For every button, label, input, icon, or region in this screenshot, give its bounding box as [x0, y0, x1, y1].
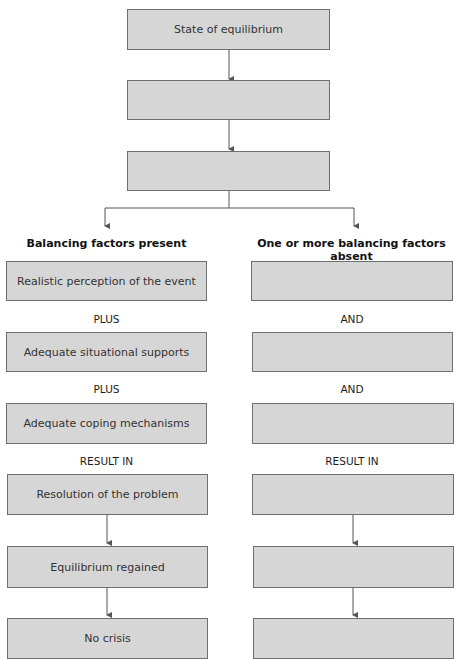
left-branch-heading: Balancing factors present	[6, 237, 207, 250]
right-box-1	[251, 261, 453, 301]
left-box-realistic-perception: Realistic perception of the event	[6, 261, 207, 301]
right-box-2	[252, 332, 453, 372]
left-connector-result-in: RESULT IN	[6, 455, 207, 467]
right-connector-result-in: RESULT IN	[251, 455, 453, 467]
right-box-6	[253, 618, 454, 659]
right-box-3	[252, 403, 454, 444]
left-connector-plus-1: PLUS	[6, 313, 207, 325]
right-branch-heading: One or more balancing factors absent	[245, 237, 458, 263]
right-box-5	[253, 546, 454, 588]
left-connector-plus-2: PLUS	[6, 383, 207, 395]
blank-top-box-3	[127, 151, 330, 191]
right-connector-and-1: AND	[251, 313, 453, 325]
left-box-situational-supports: Adequate situational supports	[6, 332, 207, 372]
left-box-coping-mechanisms: Adequate coping mechanisms	[6, 403, 207, 444]
blank-top-box-2	[127, 80, 330, 120]
right-connector-and-2: AND	[251, 383, 453, 395]
left-box-resolution: Resolution of the problem	[7, 474, 208, 515]
left-box-no-crisis: No crisis	[7, 618, 208, 659]
state-of-equilibrium-box: State of equilibrium	[127, 9, 330, 50]
right-box-4	[252, 474, 454, 515]
left-box-equilibrium-regained: Equilibrium regained	[7, 546, 208, 588]
